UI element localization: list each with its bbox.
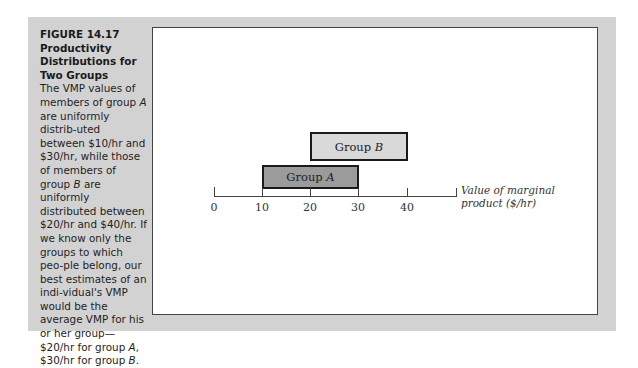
group-a-bar: Group A (262, 165, 359, 189)
figure-title-line-2: Distributions for (40, 55, 148, 69)
figure-caption-body: The VMP values of members of group A are… (40, 82, 148, 367)
figure-title-line-3: Two Groups (40, 69, 148, 83)
x-axis-tick-0 (214, 187, 215, 197)
x-axis-label-0: 0 (199, 201, 229, 214)
caption-segment: are uniformly distributed between $20/hr… (40, 178, 147, 353)
caption-segment: . (136, 354, 139, 366)
group-b-bar: Group B (310, 132, 408, 161)
x-axis-title-line-1: Value of marginal (461, 184, 591, 197)
group-b-label: Group B (335, 140, 384, 154)
x-axis-tick-20 (310, 188, 311, 197)
caption-segment: The VMP values of members of group (40, 82, 139, 108)
caption-segment: A (139, 96, 146, 108)
x-axis-title-line-2: product ($/hr) (461, 197, 591, 210)
x-axis-title: Value of marginal product ($/hr) (461, 184, 591, 209)
figure-number: FIGURE 14.17 (40, 28, 148, 42)
caption-segment: B (129, 354, 136, 366)
x-axis-label-10: 10 (247, 201, 277, 214)
x-axis-line (214, 196, 457, 197)
caption-segment: A (129, 341, 136, 353)
figure-title-line-1: Productivity (40, 42, 148, 56)
x-axis-label-40: 40 (392, 201, 422, 214)
x-axis-tick-10 (262, 188, 263, 197)
x-axis-label-20: 20 (295, 201, 325, 214)
x-axis-tick-40 (407, 188, 408, 197)
group-a-label: Group A (286, 170, 334, 184)
x-axis-end-tick (456, 188, 457, 197)
x-axis-tick-30 (358, 188, 359, 197)
chart-frame (152, 27, 598, 315)
x-axis-label-30: 30 (343, 201, 373, 214)
caption-segment: B (73, 178, 80, 190)
figure-caption: FIGURE 14.17 Productivity Distributions … (40, 28, 148, 368)
